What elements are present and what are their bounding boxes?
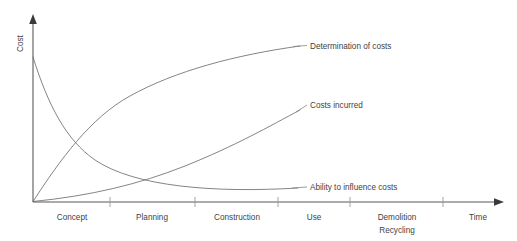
x-category-construction: Construction [214, 213, 260, 222]
leader-ability-to-influence-costs [292, 187, 307, 188]
x-category-use: Use [307, 213, 322, 222]
axis-group [29, 14, 504, 206]
x-category-planning: Planning [136, 213, 168, 222]
x-axis-arrow-icon [494, 198, 504, 206]
x-axis-label: Time [469, 213, 487, 222]
x-category-demolition: Demolition [378, 213, 417, 222]
leader-costs-incurred [296, 105, 307, 112]
annotation-leaders [292, 46, 307, 189]
curve-ability-to-influence-costs [33, 57, 298, 190]
chart-canvas: Determination of costs Costs incurred Ab… [0, 0, 517, 241]
x-category-concept: Concept [57, 213, 88, 222]
leader-determination-of-costs [293, 46, 307, 47]
curve-costs-incurred [33, 110, 300, 202]
x-category-recycling: Recycling [379, 226, 415, 235]
curves-group [33, 46, 300, 202]
lifecycle-cost-chart: Determination of costs Costs incurred Ab… [0, 0, 517, 241]
label-costs-incurred: Costs incurred [310, 101, 363, 110]
label-determination-of-costs: Determination of costs [310, 42, 391, 51]
y-axis-label: Cost [16, 34, 25, 52]
y-axis-arrow-icon [29, 14, 37, 24]
curve-determination-of-costs [33, 46, 300, 202]
label-ability-to-influence-costs: Ability to influence costs [310, 183, 397, 192]
